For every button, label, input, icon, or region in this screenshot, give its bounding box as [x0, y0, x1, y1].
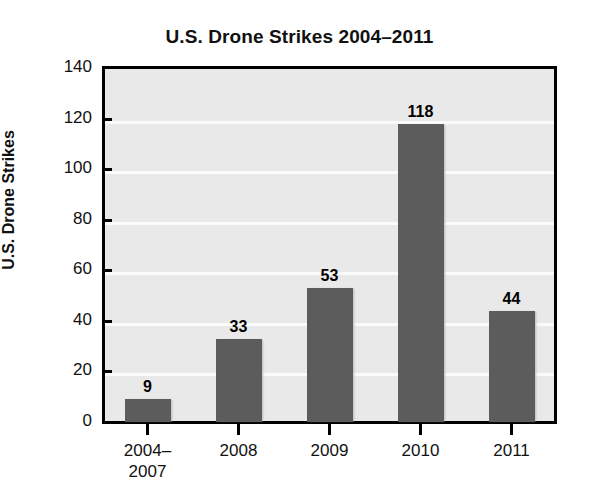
x-axis-tick — [146, 424, 149, 435]
y-axis-title: U.S. Drone Strikes — [0, 50, 18, 350]
gridline — [105, 121, 554, 124]
bar-value-label: 33 — [199, 318, 279, 336]
x-axis-tick-label: 2011 — [457, 440, 567, 461]
bar[interactable] — [307, 288, 353, 422]
gridline — [105, 222, 554, 225]
x-axis-tick — [510, 424, 513, 435]
y-axis-tick-label: 120 — [32, 108, 92, 128]
bar[interactable] — [398, 124, 444, 422]
bar-chart-figure: U.S. Drone Strikes 2004–2011 U.S. Drone … — [0, 0, 599, 499]
bar[interactable] — [216, 339, 262, 422]
y-axis-tick-label: 20 — [32, 360, 92, 380]
x-axis-tick — [419, 424, 422, 435]
bar-value-label: 9 — [108, 378, 188, 396]
y-axis-tick-label: 0 — [32, 411, 92, 431]
gridline — [105, 171, 554, 174]
y-axis-tick-label: 80 — [32, 209, 92, 229]
y-axis-labels: 020406080100120140 — [28, 0, 92, 499]
bar-value-label: 44 — [472, 290, 552, 308]
bar[interactable] — [125, 399, 171, 422]
bar-value-label: 53 — [290, 267, 370, 285]
y-axis-tick-label: 140 — [32, 57, 92, 77]
y-axis-tick-label: 60 — [32, 259, 92, 279]
bar-value-label: 118 — [381, 103, 461, 121]
y-axis-tick — [102, 118, 112, 121]
x-axis-tick — [237, 424, 240, 435]
y-axis-tick — [102, 269, 112, 272]
y-axis-tick — [102, 219, 112, 222]
y-axis-tick — [102, 370, 112, 373]
y-axis-tick-label: 100 — [32, 158, 92, 178]
y-axis-tick — [102, 168, 112, 171]
bar[interactable] — [489, 311, 535, 422]
y-axis-tick-label: 40 — [32, 310, 92, 330]
x-axis-tick — [328, 424, 331, 435]
y-axis-tick — [102, 320, 112, 323]
